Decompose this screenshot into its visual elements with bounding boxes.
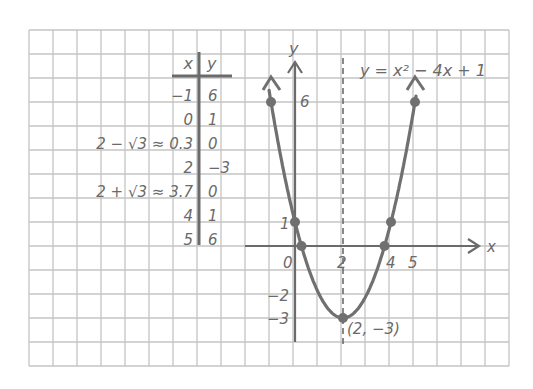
table-cell-x: 2	[183, 159, 193, 177]
data-point	[386, 217, 396, 227]
table-cell-x: 5	[183, 231, 193, 249]
table-header-y: y	[206, 54, 217, 73]
table-cell-y: 0	[208, 135, 218, 153]
table-cell-x: 2 + √3 ≈ 3.7	[96, 183, 193, 201]
table-cell-y: 0	[208, 183, 218, 201]
table-cell-y: 6	[208, 87, 218, 105]
vertex-label: (2, −3)	[347, 320, 400, 338]
table-cell-y: 6	[208, 231, 218, 249]
table-cell-x: 0	[183, 111, 193, 129]
data-point	[266, 97, 276, 107]
table-cell-x: 4	[183, 207, 193, 225]
x-tick-2: 2	[337, 254, 347, 272]
table-cell-y: −3	[208, 159, 230, 177]
value-table: x y −16012 − √3 ≈ 0.302−32 + √3 ≈ 3.7041…	[96, 52, 232, 249]
y-tick-1: 1	[280, 215, 290, 233]
table-cell-x: 2 − √3 ≈ 0.3	[96, 135, 193, 153]
x-tick-5: 5	[408, 254, 418, 272]
y-tick-neg2: −2	[267, 287, 289, 305]
data-point	[410, 97, 420, 107]
table-cell-y: 1	[208, 111, 218, 129]
y-tick-neg3: −3	[267, 310, 289, 328]
y-tick-6: 6	[300, 93, 310, 111]
table-cell-y: 1	[208, 207, 218, 225]
graph-paper-figure: x y −16012 − √3 ≈ 0.302−32 + √3 ≈ 3.7041…	[0, 0, 533, 389]
data-point	[380, 241, 390, 251]
y-axis-label: y	[288, 39, 299, 58]
table-cell-x: −1	[171, 87, 193, 105]
equation-label: y = x² − 4x + 1	[359, 61, 486, 80]
curve-left-arrow-icon	[263, 77, 280, 90]
data-point	[290, 217, 300, 227]
x-tick-0: 0	[283, 254, 293, 272]
x-axis-label: x	[486, 238, 496, 256]
x-tick-4: 4	[386, 254, 396, 272]
table-header-x: x	[183, 54, 194, 73]
data-point	[296, 241, 306, 251]
